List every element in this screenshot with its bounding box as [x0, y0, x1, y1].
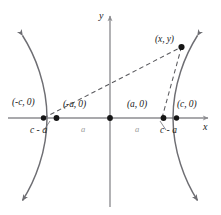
hyperbola-figure: (-c, 0) (-a, 0) (a, 0) (c, 0) (x, y) c -…: [0, 0, 221, 215]
label-x-axis: x: [203, 122, 207, 132]
point-left-vertex: [54, 115, 60, 121]
point-xy: [178, 44, 184, 50]
label-a-right: a: [135, 125, 139, 134]
label-right-segment-c-minus-a: c - a: [160, 126, 177, 136]
label-left-vertex: (-a, 0): [63, 100, 86, 110]
point-right-vertex: [161, 115, 167, 121]
label-left-segment-c-minus-a: c - a: [30, 126, 47, 136]
label-right-focus: (c, 0): [177, 100, 196, 110]
label-a-left: a: [81, 125, 85, 134]
point-left-focus: [41, 115, 46, 120]
point-origin: [107, 115, 113, 121]
label-y-axis: y: [99, 11, 103, 21]
label-right-vertex: (a, 0): [127, 100, 147, 110]
label-point-xy: (x, y): [155, 35, 174, 45]
label-left-focus: (-c, 0): [12, 98, 35, 108]
point-right-focus: [174, 115, 179, 120]
